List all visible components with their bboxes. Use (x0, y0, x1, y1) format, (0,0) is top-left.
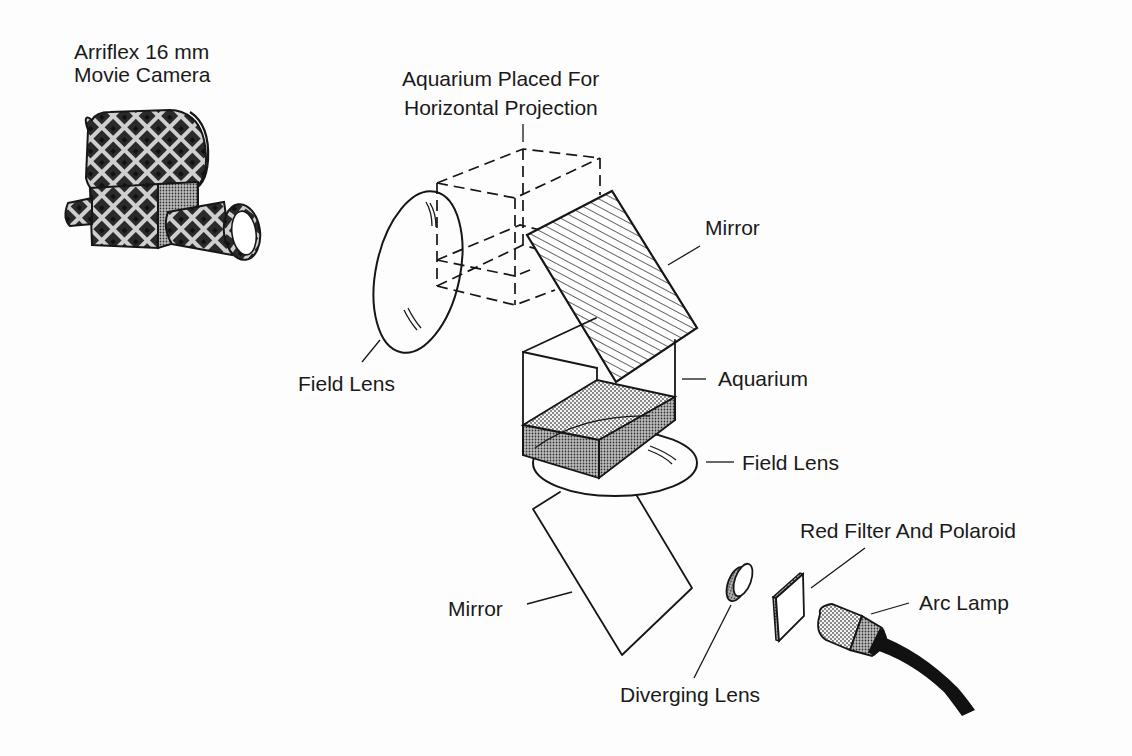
field-lens-left-label: Field Lens (298, 372, 395, 395)
leader-line (694, 605, 731, 678)
leader-line (362, 340, 380, 362)
optical-setup-diagram: Arriflex 16 mm Movie Camera Aquarium Pla… (0, 0, 1132, 756)
leader-line (871, 603, 909, 614)
mirror-lower-plane (533, 492, 692, 655)
mirror-lower-label: Mirror (448, 597, 503, 620)
camera-label-line2: Movie Camera (74, 63, 211, 86)
field-lens-lower-label: Field Lens (742, 451, 839, 474)
diverging-lens-label: Diverging Lens (620, 683, 760, 706)
movie-camera-icon (65, 110, 263, 262)
aquarium-label: Aquarium (718, 367, 808, 390)
leader-line (527, 592, 572, 604)
leader-line (668, 246, 700, 265)
aquarium-horizontal-label-line2: Horizontal Projection (404, 96, 598, 119)
leader-line (811, 548, 865, 588)
arc-lamp-label: Arc Lamp (919, 591, 1009, 614)
diverging-lens-icon (722, 561, 756, 604)
camera-label-line1: Arriflex 16 mm (74, 40, 209, 63)
mirror-upper-hatched (527, 191, 697, 382)
arc-lamp-icon (818, 604, 975, 716)
red-filter-icon (773, 573, 804, 641)
mirror-upper-label: Mirror (705, 216, 760, 239)
field-lens-left-icon (360, 183, 476, 361)
aquarium-horizontal-label-line1: Aquarium Placed For (402, 67, 599, 90)
red-filter-label: Red Filter And Polaroid (800, 519, 1016, 542)
